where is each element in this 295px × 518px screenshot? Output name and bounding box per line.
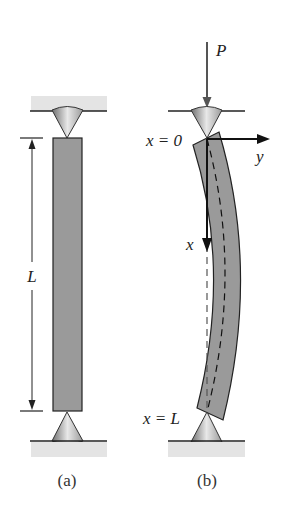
y-axis-label: y — [254, 147, 264, 166]
bottom-support-band — [31, 442, 107, 457]
dimension-arrow-down-icon — [29, 400, 36, 410]
x-axis-arrow-icon — [202, 238, 212, 252]
bottom-pin-icon — [52, 412, 83, 444]
top-position-label: x = 0 — [145, 131, 183, 150]
y-axis-arrow-icon — [257, 134, 270, 144]
straight-column — [53, 138, 82, 411]
panel-b: P x y x = 0 x = L (b) — [142, 41, 270, 490]
bottom-support-band — [168, 442, 245, 457]
bottom-position-label: x = L — [142, 409, 180, 428]
buckled-column — [193, 132, 241, 420]
caption-a: (a) — [58, 471, 77, 490]
top-pin-icon — [52, 107, 83, 139]
column-buckling-diagram: L (a) P x y x = 0 x = L (b) — [0, 0, 295, 518]
panel-a: L (a) — [20, 96, 107, 490]
load-label: P — [215, 41, 226, 60]
x-axis-label: x — [185, 235, 194, 254]
caption-b: (b) — [197, 471, 217, 490]
dimension-arrow-up-icon — [29, 139, 36, 149]
length-label: L — [26, 267, 36, 286]
